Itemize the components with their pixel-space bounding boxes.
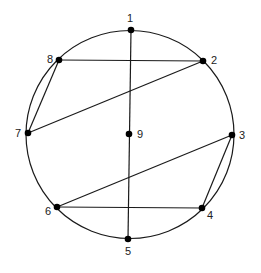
node-label-5: 5 <box>125 245 131 257</box>
node-2 <box>200 58 207 65</box>
node-label-1: 1 <box>127 12 133 24</box>
node-6 <box>54 204 61 211</box>
edge-8-2 <box>59 60 203 61</box>
node-label-8: 8 <box>47 53 53 65</box>
edge-6-4 <box>57 207 202 208</box>
node-label-6: 6 <box>45 205 51 217</box>
node-7 <box>25 130 32 137</box>
node-3 <box>229 132 236 139</box>
node-9 <box>126 131 133 138</box>
node-1 <box>128 27 135 34</box>
node-label-4: 4 <box>207 209 213 221</box>
node-label-3: 3 <box>239 129 245 141</box>
node-label-2: 2 <box>211 54 217 66</box>
node-label-9: 9 <box>137 128 143 140</box>
node-label-7: 7 <box>15 127 21 139</box>
graph-diagram: 123456789 <box>0 0 261 273</box>
node-4 <box>199 205 206 212</box>
node-5 <box>125 236 132 243</box>
node-8 <box>56 57 63 64</box>
edge-3-6 <box>57 135 232 207</box>
